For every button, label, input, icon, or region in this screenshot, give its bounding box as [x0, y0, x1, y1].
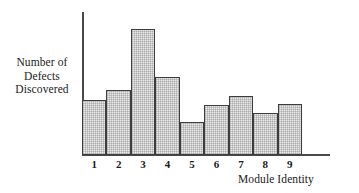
bar [82, 100, 106, 155]
x-tick-label: 9 [278, 158, 302, 171]
x-axis-label: Module Identity [238, 173, 314, 186]
x-tick-label: 3 [131, 158, 155, 171]
bar [180, 122, 204, 155]
defects-bar-chart: Number of Defects Discovered 123456789 M… [0, 0, 359, 193]
bar [253, 113, 277, 155]
x-tick-label: 4 [155, 158, 179, 171]
x-tick-label: 5 [180, 158, 204, 171]
bar [278, 104, 302, 155]
x-tick-label: 8 [253, 158, 277, 171]
y-axis-label: Number of Defects Discovered [6, 56, 78, 97]
bar [106, 90, 130, 155]
x-tick-label: 2 [106, 158, 130, 171]
x-tick-label: 6 [204, 158, 228, 171]
y-axis-label-line-3: Discovered [6, 83, 78, 97]
bar [229, 96, 253, 155]
y-axis-label-line-1: Number of [6, 56, 78, 70]
bar [131, 29, 155, 155]
bar [204, 105, 228, 155]
y-axis-label-line-2: Defects [6, 70, 78, 84]
x-tick-label: 1 [82, 158, 106, 171]
x-tick-label: 7 [229, 158, 253, 171]
plot-area [82, 12, 302, 155]
bar [155, 77, 179, 155]
